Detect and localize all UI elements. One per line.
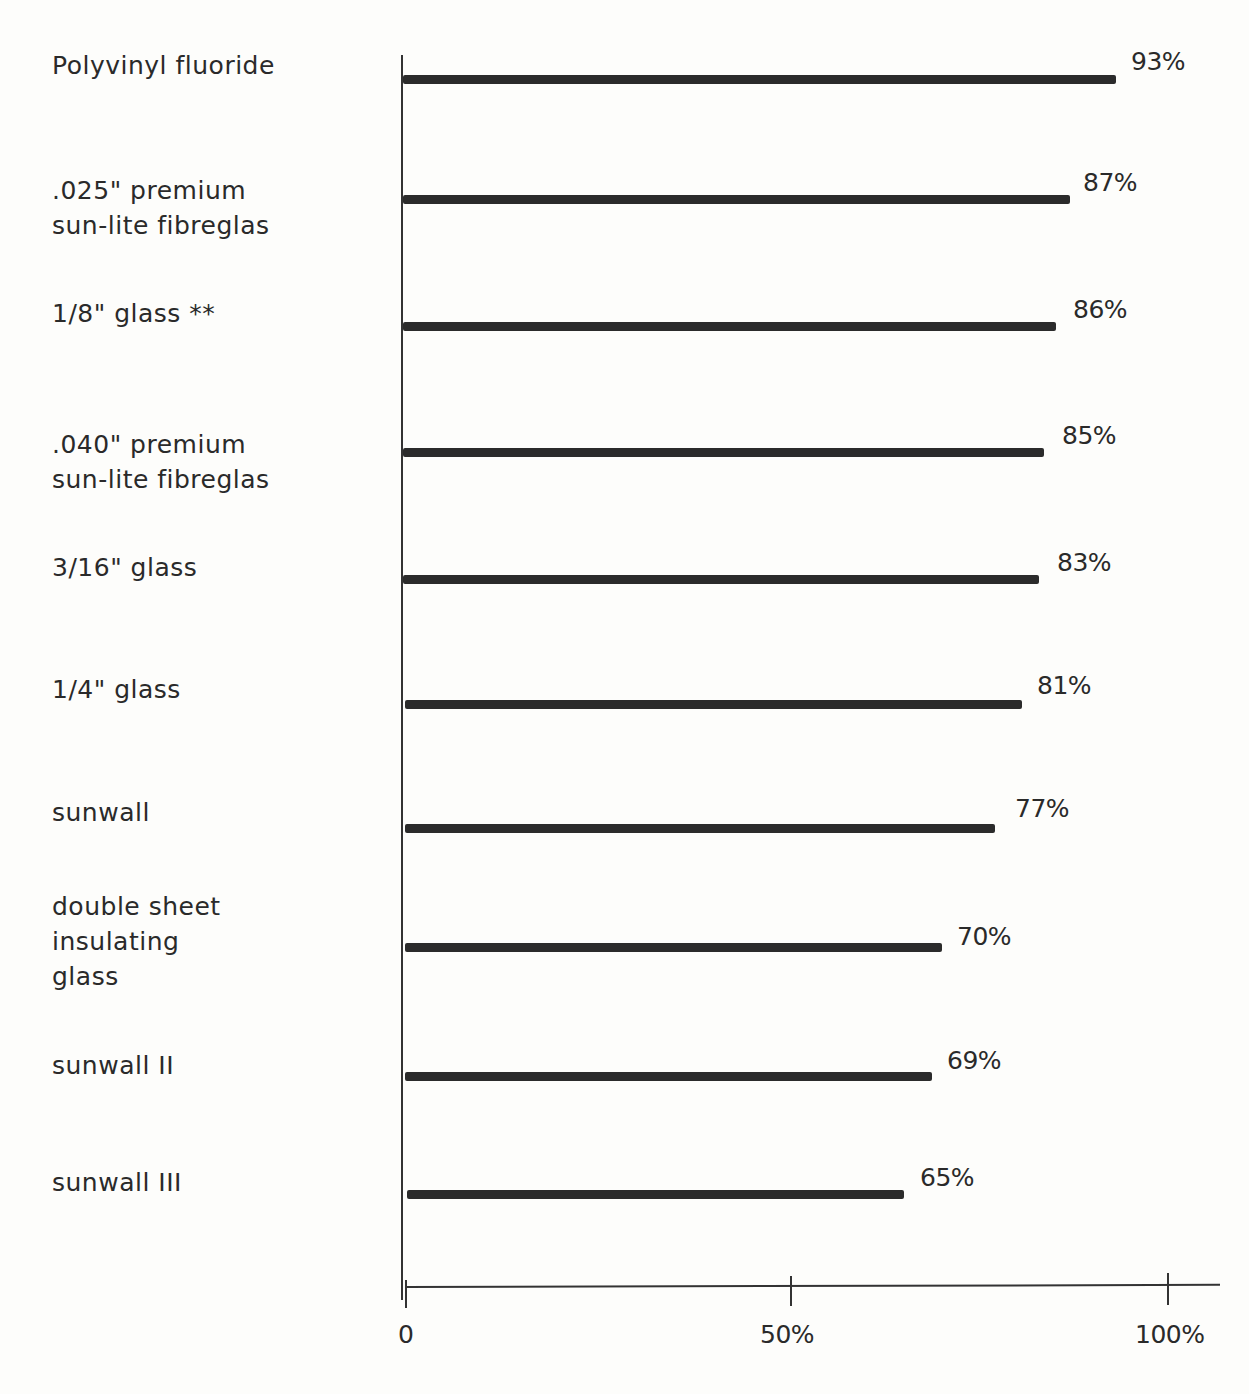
category-label-1-8-glass: 1/8" glass ** [52,296,215,331]
value-label-sunwall-iii: 65% [920,1163,974,1192]
value-label-1-8-glass: 86% [1073,295,1127,324]
x-tick-label-50: 50% [760,1320,814,1349]
bar-1-4-glass [405,700,1022,709]
value-label-sunwall-ii: 69% [947,1046,1001,1075]
category-label-1-4-glass: 1/4" glass [52,672,181,707]
y-axis-line [401,55,403,1300]
category-label-025-premium-fibreglas: .025" premium sun-lite fibreglas [52,173,270,243]
value-label-025-premium-fibreglas: 87% [1083,168,1137,197]
value-label-040-premium-fibreglas: 85% [1062,421,1116,450]
category-label-040-premium-fibreglas: .040" premium sun-lite fibreglas [52,427,270,497]
x-tick-0 [405,1280,407,1308]
category-label-double-sheet-insulating-glass: double sheet insulating glass [52,889,221,994]
category-label-polyvinyl-fluoride: Polyvinyl fluoride [52,48,275,83]
value-label-3-16-glass: 83% [1057,548,1111,577]
category-label-3-16-glass: 3/16" glass [52,550,197,585]
x-tick-50 [790,1276,792,1306]
bar-polyvinyl-fluoride [403,75,1116,84]
bar-025-premium-fibreglas [403,195,1070,204]
category-label-sunwall-ii: sunwall II [52,1048,174,1083]
bar-3-16-glass [403,575,1039,584]
x-tick-100 [1167,1273,1169,1305]
bar-1-8-glass [403,322,1056,331]
bar-sunwall [405,824,995,833]
value-label-sunwall: 77% [1015,794,1069,823]
x-axis-line [405,1284,1220,1288]
category-label-sunwall: sunwall [52,795,150,830]
bar-sunwall-ii [405,1072,932,1081]
value-label-polyvinyl-fluoride: 93% [1131,47,1185,76]
x-tick-label-100: 100% [1135,1320,1204,1349]
bar-sunwall-iii [407,1190,904,1199]
value-label-1-4-glass: 81% [1037,671,1091,700]
bar-040-premium-fibreglas [403,448,1044,457]
x-tick-label-0: 0 [398,1320,413,1349]
category-label-sunwall-iii: sunwall III [52,1165,182,1200]
value-label-double-sheet-insulating-glass: 70% [957,922,1011,951]
bar-double-sheet-insulating-glass [405,943,942,952]
